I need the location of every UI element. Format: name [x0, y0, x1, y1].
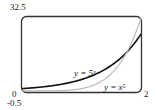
label-5x: y = 5ˣ	[73, 68, 96, 78]
curve-5-pow-x	[22, 34, 141, 89]
curves	[22, 18, 141, 91]
plot-area: y = 5ˣ y = x⁵	[0, 0, 156, 110]
label-x5: y = x⁵	[103, 82, 126, 92]
